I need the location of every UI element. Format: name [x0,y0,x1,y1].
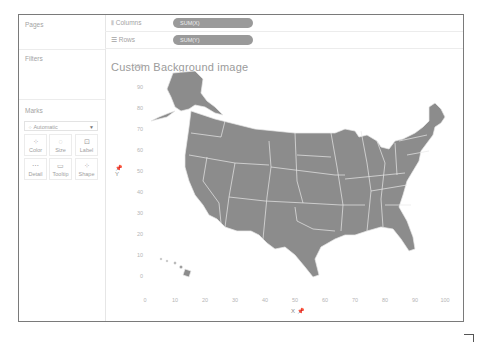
pages-card[interactable]: Pages [19,15,105,50]
y-axis-title[interactable]: 📌Y [115,164,122,177]
rows-pill[interactable]: SUM(Y) [173,35,253,45]
x-tick: 80 [375,297,395,303]
color-button[interactable]: ⁘ Color [24,134,47,156]
x-axis-title-text: X [291,308,295,314]
x-tick: 20 [195,297,215,303]
label-button[interactable]: ⊡ Label [75,134,98,156]
y-tick: 60 [127,147,143,153]
tooltip-label: Tooltip [53,171,69,177]
detail-icon: ⋯ [25,161,46,171]
label-icon: ⊡ [76,137,97,147]
x-tick: 40 [255,297,275,303]
x-tick: 70 [345,297,365,303]
columns-shelf-label: ⦀ Columns [111,19,141,27]
left-panel: Pages Filters Marks ⁘ Automatic ▼ ⁘ Colo… [19,15,106,321]
x-tick: 60 [315,297,335,303]
y-tick: 90 [127,84,143,90]
pages-title: Pages [25,21,43,28]
x-tick: 50 [285,297,305,303]
filters-card[interactable]: Filters [19,49,105,100]
x-tick: 90 [405,297,425,303]
resize-corner [473,334,474,342]
rows-label-text: Rows [119,36,135,43]
columns-pill[interactable]: SUM(X) [173,18,253,28]
viz-area: Custom Background image 100 90 80 70 60 … [105,49,463,321]
label-label: Label [80,147,93,153]
y-tick: 20 [127,231,143,237]
rows-shelf-label: ☰ Rows [111,36,135,44]
y-tick: 30 [127,210,143,216]
mark-type-dropdown[interactable]: ⁘ Automatic ▼ [24,121,98,131]
mark-type-value: Automatic [33,124,57,130]
filters-title: Filters [25,55,43,62]
marks-card: Marks ⁘ Automatic ▼ ⁘ Color ◌ Size ⊡ Lab… [19,99,105,199]
shape-label: Shape [79,171,95,177]
y-tick: 10 [127,252,143,258]
size-button[interactable]: ◌ Size [49,134,72,156]
tooltip-icon: ▭ [50,161,71,171]
rows-icon: ☰ [111,36,119,43]
x-axis-title[interactable]: X 📌 [291,307,304,314]
color-label: Color [29,147,42,153]
x-tick: 0 [135,297,155,303]
columns-shelf[interactable]: ⦀ Columns SUM(X) [105,15,463,32]
y-tick: 50 [127,168,143,174]
size-icon: ◌ [50,137,71,147]
chevron-down-icon: ▼ [89,122,94,132]
tableau-worksheet: Pages Filters Marks ⁘ Automatic ▼ ⁘ Colo… [18,14,464,322]
pin-icon: 📌 [297,308,304,314]
size-label: Size [55,147,66,153]
y-tick: 100 [127,63,143,69]
columns-label-text: Columns [116,19,142,26]
detail-label: Detail [28,171,42,177]
x-tick: 10 [165,297,185,303]
marks-title: Marks [25,107,43,114]
x-tick: 100 [435,297,455,303]
us-map-background-image [145,71,453,293]
tooltip-button[interactable]: ▭ Tooltip [49,158,72,180]
y-tick: 40 [127,189,143,195]
x-tick: 30 [225,297,245,303]
y-tick: 80 [127,105,143,111]
detail-button[interactable]: ⋯ Detail [24,158,47,180]
y-tick: 0 [127,273,143,279]
shape-icon: ⁘ [76,161,97,171]
shape-button[interactable]: ⁘ Shape [75,158,98,180]
color-dots-icon: ⁘ [25,137,46,147]
rows-shelf[interactable]: ☰ Rows SUM(Y) [105,32,463,49]
y-tick: 70 [127,126,143,132]
y-axis-title-text: Y [115,171,119,177]
